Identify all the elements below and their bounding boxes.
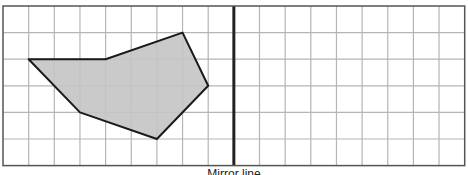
- mirror-line-caption: Mirror line: [0, 167, 468, 175]
- reflection-grid-diagram: [0, 0, 468, 175]
- shaded-polygon: [29, 33, 209, 139]
